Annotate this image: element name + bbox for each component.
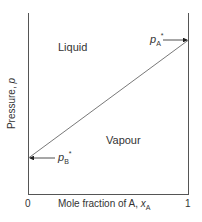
pA-star-label: pA* [150,34,164,45]
region-label-vapour: Vapour [106,135,141,146]
y-axis-label-text: Pressure, [6,84,17,130]
y-axis-symbol: p [6,78,17,84]
x-tick-0: 0 [25,199,31,209]
pB-sub: B [64,158,69,165]
pB-sup: * [69,150,72,157]
pA-sub: A [156,40,161,47]
region-label-liquid: Liquid [58,42,87,53]
pA-sup: * [161,32,164,39]
phase-diagram-canvas [0,0,202,222]
x-axis-label: Mole fraction of A, xA [58,199,151,209]
x-axis-label-text: Mole fraction of A, [58,198,141,209]
x-tick-1: 1 [185,199,191,209]
x-axis-symbol-sub: A [146,204,151,211]
pB-star-label: pB* [58,152,72,163]
y-axis-label: Pressure, p [6,71,17,137]
